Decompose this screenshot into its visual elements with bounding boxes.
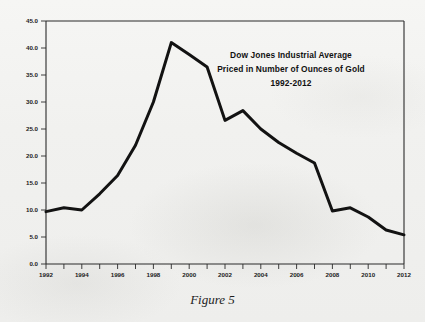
y-tick-label: 0.0	[29, 260, 38, 267]
y-tick-label: 20.0	[26, 152, 39, 159]
x-tick-label: 1996	[111, 271, 125, 278]
chart-title-line-1: Dow Jones Industrial Average	[230, 50, 352, 60]
x-tick-label: 2004	[254, 271, 268, 278]
x-axis-ticks: 1992 1994 1996 1998 2000 2002 2004	[39, 264, 411, 278]
x-tick-label: 2008	[326, 271, 340, 278]
x-tick-label: 2000	[182, 271, 196, 278]
chart-title-line-2: Priced in Number of Ounces of Gold	[217, 64, 365, 74]
y-tick-label: 30.0	[26, 98, 39, 105]
y-tick-label: 35.0	[26, 71, 39, 78]
y-tick-label: 10.0	[26, 206, 39, 213]
chart-container: 0.0 5.0 10.0 15.0 20.0 25.0 30.0 35.0 40…	[0, 0, 425, 292]
y-axis-ticks: 0.0 5.0 10.0 15.0 20.0 25.0 30.0 35.0 40…	[26, 17, 46, 267]
y-tick-label: 45.0	[26, 17, 39, 24]
chart-title-block: Dow Jones Industrial Average Priced in N…	[217, 50, 365, 88]
x-tick-label: 2002	[218, 271, 232, 278]
figure-caption: Figure 5	[0, 292, 425, 308]
x-tick-label: 2010	[361, 271, 375, 278]
figure-5: 0.0 5.0 10.0 15.0 20.0 25.0 30.0 35.0 40…	[0, 0, 425, 322]
y-tick-label: 25.0	[26, 125, 39, 132]
x-tick-label: 1992	[39, 271, 53, 278]
y-tick-label: 5.0	[29, 233, 38, 240]
y-tick-label: 15.0	[26, 179, 39, 186]
x-tick-label: 2012	[397, 271, 411, 278]
x-tick-label: 1994	[75, 271, 89, 278]
y-tick-label: 40.0	[26, 44, 39, 51]
chart-title-line-3: 1992-2012	[271, 78, 312, 88]
x-tick-label: 1998	[147, 271, 161, 278]
x-tick-label: 2006	[290, 271, 304, 278]
line-chart: 0.0 5.0 10.0 15.0 20.0 25.0 30.0 35.0 40…	[0, 0, 425, 292]
